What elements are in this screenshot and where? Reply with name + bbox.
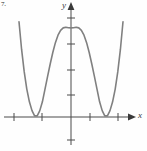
y-axis-arrowhead bbox=[68, 2, 75, 10]
graph-plot bbox=[0, 0, 147, 151]
x-axis-arrowhead bbox=[128, 114, 136, 121]
figure-container: 7. y x bbox=[0, 0, 147, 151]
